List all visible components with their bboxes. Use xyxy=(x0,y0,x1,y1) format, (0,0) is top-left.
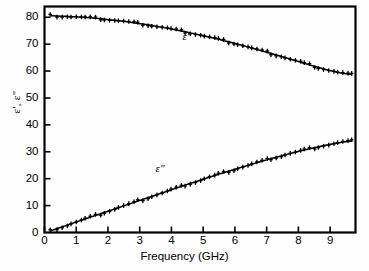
y-tick-label: 0 xyxy=(13,226,39,238)
x-tick-label: 5 xyxy=(191,234,215,246)
series-markers-1 xyxy=(48,12,353,76)
y-tick-label: 10 xyxy=(13,199,39,211)
x-axis-title: Frequency (GHz) xyxy=(0,250,369,262)
series-line-2 xyxy=(51,141,352,231)
epsilon-double-prime-label: ε" xyxy=(156,162,165,174)
y-tick-label: 80 xyxy=(13,10,39,22)
x-tick-label: 2 xyxy=(96,234,120,246)
y-tick-label: 60 xyxy=(13,64,39,76)
y-tick-label: 50 xyxy=(13,91,39,103)
chart-figure: ε', ε" Frequency (GHz) 01234567890102030… xyxy=(0,0,369,271)
x-tick-label: 1 xyxy=(64,234,88,246)
x-tick-label: 3 xyxy=(128,234,152,246)
x-tick-label: 9 xyxy=(318,234,342,246)
series-line-1 xyxy=(51,16,352,75)
x-tick-label: 7 xyxy=(255,234,279,246)
x-tick-label: 8 xyxy=(286,234,310,246)
x-tick-label: 4 xyxy=(159,234,183,246)
epsilon-prime-label: ε' xyxy=(183,30,190,42)
y-tick-label: 30 xyxy=(13,145,39,157)
y-tick-label: 70 xyxy=(13,37,39,49)
y-tick-label: 40 xyxy=(13,118,39,130)
series-markers-2 xyxy=(48,138,353,232)
plot-frame xyxy=(45,7,356,233)
x-tick-label: 6 xyxy=(223,234,247,246)
y-tick-label: 20 xyxy=(13,172,39,184)
